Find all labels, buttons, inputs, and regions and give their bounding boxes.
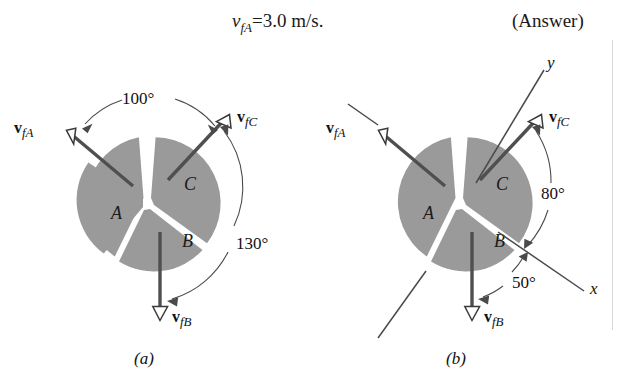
vfa-symbol: v [14,119,22,136]
vfb-b-subscript: fB [492,314,504,329]
equation-value: 3.0 m/s. [263,10,324,31]
x-axis-label: x [589,279,598,298]
vfb-subscript: fB [180,314,192,329]
equation-subscript: fA [240,20,252,35]
angle-label-80: 80° [541,184,565,203]
panel-a-caption: (a) [134,349,154,368]
equation-relation: = [252,10,263,31]
segment-label-a: A [110,203,123,223]
segment-label-a-b: A [422,203,435,223]
vfb-symbol: v [172,308,180,325]
vfc-b-symbol: v [549,108,557,125]
segment-label-c-b: C [496,174,509,194]
vfa-b-subscript: fA [334,125,346,140]
vfb-b-symbol: v [484,308,492,325]
vfc-b-subscript: fC [557,114,570,129]
vfa-subscript: fA [22,125,34,140]
y-axis-label: y [545,53,555,72]
vfc-subscript: fC [245,114,258,129]
angle-label-130: 130° [236,234,268,253]
angle-label-100: 100° [122,89,154,108]
segment-label-b-b: B [494,231,505,251]
angle-label-50: 50° [512,273,536,292]
answer-tag: (Answer) [512,10,584,32]
segment-label-b: B [182,231,193,251]
physics-figure: vfA=3.0 m/s. (Answer) A B C vfA [0,0,626,375]
vfa-b-symbol: v [326,119,334,136]
vfc-symbol: v [237,108,245,125]
panel-b-caption: (b) [446,349,466,368]
segment-label-c: C [184,174,197,194]
